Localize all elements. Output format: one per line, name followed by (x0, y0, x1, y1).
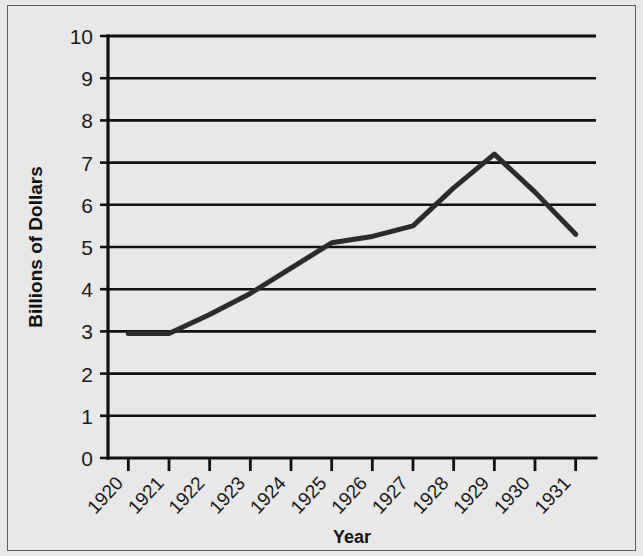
x-tick-label: 1931 (530, 472, 574, 517)
gridlines (108, 36, 596, 416)
x-tick-label: 1925 (286, 472, 330, 517)
y-tick-label: 7 (81, 152, 93, 175)
x-tick-label: 1921 (124, 472, 168, 517)
y-tick-label: 6 (81, 194, 93, 217)
y-tick-label: 4 (81, 278, 93, 301)
chart-figure: 012345678910 192019211922192319241925192… (0, 0, 643, 556)
x-tick-label: 1923 (205, 472, 249, 517)
data-series-line (128, 154, 575, 333)
x-tick-label: 1930 (490, 472, 534, 517)
y-tick-label: 1 (81, 405, 93, 428)
line-chart: 012345678910 192019211922192319241925192… (0, 0, 643, 556)
x-tick-label: 1926 (327, 472, 371, 517)
y-tick-label: 3 (81, 320, 93, 343)
x-tick-label: 1927 (368, 472, 412, 517)
x-tick-marks (128, 458, 575, 471)
x-tick-label: 1920 (83, 472, 127, 517)
x-tick-label: 1928 (408, 472, 452, 517)
x-tick-label: 1922 (164, 472, 208, 517)
y-tick-label: 8 (81, 109, 93, 132)
y-tick-labels: 012345678910 (70, 25, 94, 470)
x-tick-labels: 1920192119221923192419251926192719281929… (83, 472, 575, 518)
y-axis-title: Billions of Dollars (25, 166, 46, 328)
y-tick-label: 0 (81, 447, 93, 470)
y-tick-label: 5 (81, 236, 93, 259)
x-tick-label: 1924 (246, 472, 290, 518)
x-axis-title: Year (333, 527, 371, 547)
y-tick-label: 9 (81, 67, 93, 90)
y-tick-label: 2 (81, 363, 93, 386)
x-tick-label: 1929 (449, 472, 493, 517)
y-tick-label: 10 (70, 25, 93, 48)
